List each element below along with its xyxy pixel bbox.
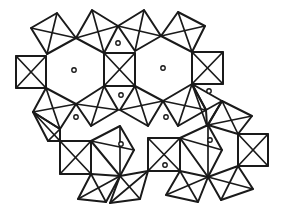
octahedron-square xyxy=(166,171,208,202)
square-outline xyxy=(91,126,134,176)
octahedra-layer xyxy=(16,10,268,203)
octahedron-square xyxy=(208,166,253,200)
octahedron-square xyxy=(180,125,222,177)
octahedron-square xyxy=(60,141,91,174)
octahedron-square xyxy=(76,10,118,53)
atom-circle xyxy=(163,163,167,167)
atom-circle xyxy=(72,68,76,72)
atom-circle xyxy=(116,41,120,45)
atom-circle xyxy=(208,138,212,142)
octahedron-square xyxy=(238,134,268,166)
octahedron-square xyxy=(120,86,163,126)
octahedron-square xyxy=(192,52,223,84)
octahedron-square xyxy=(78,174,120,202)
octahedron-square xyxy=(76,86,118,126)
octahedron-square xyxy=(16,56,46,88)
octahedron-square xyxy=(118,10,161,51)
octahedron-square xyxy=(91,126,134,176)
octahedron-square xyxy=(104,53,135,86)
structure-diagram xyxy=(0,0,283,212)
atom-circle xyxy=(119,93,123,97)
octahedron-square xyxy=(161,12,205,52)
square-outline xyxy=(180,125,222,177)
octahedron-square xyxy=(31,13,76,54)
atom-circle xyxy=(74,115,78,119)
atom-circle xyxy=(207,89,211,93)
square-outline xyxy=(161,12,205,52)
atom-circle xyxy=(164,115,168,119)
square-diagonal xyxy=(180,171,198,202)
atom-circle xyxy=(119,142,123,146)
atom-circle xyxy=(161,66,165,70)
polyhedral-framework-figure xyxy=(0,0,283,212)
